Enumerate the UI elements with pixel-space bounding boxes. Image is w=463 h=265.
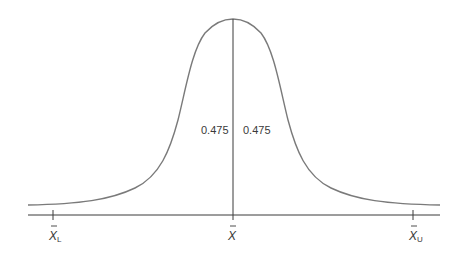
left-area-label: 0.475	[201, 124, 229, 136]
right-area-label: 0.475	[243, 124, 271, 136]
lower-limit-label: X L	[48, 226, 62, 244]
mean-label: X	[227, 226, 237, 243]
upper-limit-label: X U	[408, 226, 423, 244]
svg-text:X: X	[227, 229, 237, 243]
svg-text:L: L	[57, 235, 62, 244]
normal-curve-diagram: 0.475 0.475 X L X X U	[0, 0, 463, 265]
bell-curve	[28, 19, 440, 205]
svg-text:U: U	[417, 235, 423, 244]
